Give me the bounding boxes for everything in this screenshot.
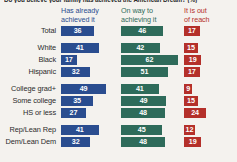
row-group-party: Rep/Lean Rep414512Dem/Lean Dem324819 [0, 125, 237, 147]
bar-track-it-is-out-of-reach: 9 [184, 84, 234, 94]
bar-it-is-out-of-reach: 9 [184, 84, 192, 94]
row-label: Black [0, 55, 58, 65]
bar-track-has-already-achieved-it: 36 [61, 26, 117, 36]
bar-track-it-is-out-of-reach: 24 [184, 108, 234, 118]
row-label: HS or less [0, 108, 58, 118]
bar-track-it-is-out-of-reach: 19 [184, 55, 234, 65]
bar-track-has-already-achieved-it: 35 [61, 96, 117, 106]
chart-legend: Has already achieved it On way to achiev… [0, 6, 237, 26]
legend-item-on-way-to-achieving-it: On way to achieving it [121, 6, 177, 25]
bar-it-is-out-of-reach: 12 [184, 125, 195, 135]
bar-track-it-is-out-of-reach: 19 [184, 137, 234, 147]
bar-track-on-way-to-achieving-it: 45 [121, 125, 181, 135]
bar-track-it-is-out-of-reach: 12 [184, 125, 234, 135]
chart-row: Black176219 [0, 55, 237, 65]
legend-label-line2: achieving it [121, 15, 177, 24]
bar-track-it-is-out-of-reach: 17 [184, 67, 234, 77]
bar-it-is-out-of-reach: 24 [184, 108, 206, 118]
legend-item-it-is-out-of-reach: It is out of reach [184, 6, 236, 25]
chart-title: Do you believe your family has achieved … [4, 0, 237, 3]
bar-track-on-way-to-achieving-it: 48 [121, 137, 181, 147]
bar-track-on-way-to-achieving-it: 62 [121, 55, 181, 65]
bar-track-has-already-achieved-it: 32 [61, 67, 117, 77]
row-label: Dem/Lean Dem [0, 137, 58, 147]
legend-label-line1: It is out [184, 6, 207, 15]
bar-track-has-already-achieved-it: 27 [61, 108, 117, 118]
row-label: Some college [0, 96, 58, 106]
bar-track-it-is-out-of-reach: 15 [184, 43, 234, 53]
row-group-race: White414215Black176219Hispanic325117 [0, 43, 237, 77]
bar-has-already-achieved-it: 35 [61, 96, 93, 106]
bar-has-already-achieved-it: 32 [61, 137, 90, 147]
legend-item-has-already-achieved-it: Has already achieved it [61, 6, 117, 25]
bar-has-already-achieved-it: 17 [61, 55, 77, 65]
row-label: Hispanic [0, 67, 58, 77]
legend-label-line1: On way to [121, 6, 153, 15]
row-label: White [0, 43, 58, 53]
chart-row: HS or less274824 [0, 108, 237, 118]
bar-it-is-out-of-reach: 17 [184, 67, 200, 77]
chart-row: Dem/Lean Dem324819 [0, 137, 237, 147]
legend-label-line1: Has already [61, 6, 99, 15]
bar-on-way-to-achieving-it: 48 [121, 108, 165, 118]
bar-track-has-already-achieved-it: 32 [61, 137, 117, 147]
bar-has-already-achieved-it: 41 [61, 125, 99, 135]
bar-on-way-to-achieving-it: 62 [121, 55, 178, 65]
bar-has-already-achieved-it: 41 [61, 43, 99, 53]
row-group-total: Total364617 [0, 26, 237, 36]
bar-on-way-to-achieving-it: 51 [121, 67, 168, 77]
bar-has-already-achieved-it: 32 [61, 67, 90, 77]
bar-track-it-is-out-of-reach: 15 [184, 96, 234, 106]
row-label: Rep/Lean Rep [0, 125, 58, 135]
bar-on-way-to-achieving-it: 42 [121, 43, 160, 53]
legend-label-line2: achieved it [61, 15, 117, 24]
bar-track-has-already-achieved-it: 41 [61, 125, 117, 135]
chart-row: College grad+49419 [0, 84, 237, 94]
bar-on-way-to-achieving-it: 48 [121, 137, 165, 147]
american-dream-bar-chart: Do you believe your family has achieved … [0, 0, 237, 162]
legend-label-line2: of reach [184, 15, 236, 24]
bar-track-on-way-to-achieving-it: 51 [121, 67, 181, 77]
chart-row: Hispanic325117 [0, 67, 237, 77]
bar-track-it-is-out-of-reach: 17 [184, 26, 234, 36]
bar-track-has-already-achieved-it: 17 [61, 55, 117, 65]
bar-it-is-out-of-reach: 17 [184, 26, 200, 36]
bar-it-is-out-of-reach: 19 [184, 137, 201, 147]
bar-has-already-achieved-it: 36 [61, 26, 94, 36]
chart-rows: Total364617White414215Black176219Hispani… [0, 26, 237, 149]
row-label: College grad+ [0, 84, 58, 94]
bar-it-is-out-of-reach: 15 [184, 43, 198, 53]
bar-on-way-to-achieving-it: 45 [121, 125, 162, 135]
bar-has-already-achieved-it: 49 [61, 84, 106, 94]
bar-track-on-way-to-achieving-it: 42 [121, 43, 181, 53]
chart-row: Some college354915 [0, 96, 237, 106]
bar-track-on-way-to-achieving-it: 41 [121, 84, 181, 94]
bar-it-is-out-of-reach: 15 [184, 96, 198, 106]
chart-row: Rep/Lean Rep414512 [0, 125, 237, 135]
row-label: Total [0, 26, 58, 36]
bar-on-way-to-achieving-it: 41 [121, 84, 159, 94]
bar-track-on-way-to-achieving-it: 49 [121, 96, 181, 106]
bar-track-on-way-to-achieving-it: 48 [121, 108, 181, 118]
bar-on-way-to-achieving-it: 49 [121, 96, 166, 106]
bar-track-has-already-achieved-it: 41 [61, 43, 117, 53]
row-group-education: College grad+49419Some college354915HS o… [0, 84, 237, 118]
bar-on-way-to-achieving-it: 46 [121, 26, 163, 36]
chart-row: White414215 [0, 43, 237, 53]
chart-row: Total364617 [0, 26, 237, 36]
bar-it-is-out-of-reach: 19 [184, 55, 201, 65]
bar-has-already-achieved-it: 27 [61, 108, 86, 118]
bar-track-on-way-to-achieving-it: 46 [121, 26, 181, 36]
bar-track-has-already-achieved-it: 49 [61, 84, 117, 94]
